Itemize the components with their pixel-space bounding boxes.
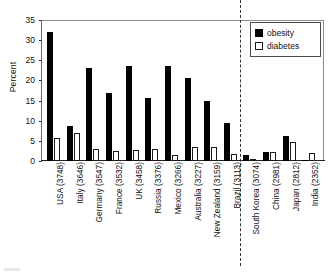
bar-group: [86, 20, 99, 161]
bar-diabetes: [250, 159, 256, 161]
bar-obesity: [67, 126, 73, 161]
y-axis-title: Percent: [8, 42, 18, 112]
x-axis-tick-label: USA (3748): [56, 162, 65, 205]
x-axis-tick-label-text: South Korea (3074): [252, 162, 261, 234]
x-axis-tick-label: Brazil (3113): [233, 162, 242, 208]
bar-obesity: [263, 152, 269, 161]
x-axis-tick-label-text: Australia (3227): [194, 162, 203, 221]
bar-diabetes: [231, 154, 237, 161]
y-axis-tick-label: 30: [19, 36, 35, 45]
bar-group: [165, 20, 178, 161]
x-axis-tick-label: India (2352): [311, 162, 320, 206]
x-axis-tick-label: Germany (3547): [95, 162, 104, 222]
bar-obesity: [302, 160, 308, 161]
scan-artifact: [4, 268, 20, 271]
legend-item-obesity: obesity: [255, 27, 316, 39]
legend-label-obesity: obesity: [267, 29, 294, 38]
bar-group: [106, 20, 119, 161]
bar-obesity: [86, 68, 92, 161]
bar-diabetes: [270, 152, 276, 161]
x-axis-tick-label-text: USA (3748): [56, 162, 65, 205]
solid-black-square-icon: [255, 29, 263, 37]
x-axis-tick-label-text: Russia (3376): [154, 162, 163, 214]
legend-item-diabetes: diabetes: [255, 40, 316, 52]
x-axis-tick-label-text: France (3532): [115, 162, 124, 214]
bar-diabetes: [211, 147, 217, 162]
bar-group: [185, 20, 198, 161]
legend-label-diabetes: diabetes: [267, 42, 299, 51]
y-axis-tick-label: 15: [19, 97, 35, 106]
x-axis-tick-label: Australia (3227): [194, 162, 203, 221]
bar-group: [204, 20, 217, 161]
y-axis-tick-label: 5: [19, 137, 35, 146]
bar-obesity: [47, 32, 53, 161]
y-axis-tick-label: 10: [19, 117, 35, 126]
bar-diabetes: [133, 150, 139, 161]
x-axis-tick-label-text: Mexico (3266): [174, 162, 183, 215]
x-axis-tick-label: South Korea (3074): [252, 162, 261, 234]
bar-obesity: [283, 136, 289, 161]
x-axis-tick-label: Russia (3376): [154, 162, 163, 214]
bar-diabetes: [152, 149, 158, 161]
bar-chart: Percent 35302520151050 obesity diabetes …: [0, 0, 329, 277]
bar-obesity: [243, 155, 249, 161]
x-axis-tick-label: Mexico (3266): [174, 162, 183, 215]
bar-diabetes: [54, 138, 60, 161]
y-axis-tick-label: 25: [19, 56, 35, 65]
x-axis-tick-label: New Zealand (3159): [213, 162, 222, 237]
chart-legend: obesity diabetes: [250, 22, 321, 57]
x-axis-tick-label-text: Japan (2812): [292, 162, 301, 211]
x-axis-tick-label-text: Germany (3547): [95, 162, 104, 222]
bar-diabetes: [74, 133, 80, 161]
bar-group: [145, 20, 158, 161]
bar-group: [47, 20, 60, 161]
x-axis-tick-label: China (2981): [272, 162, 281, 210]
y-axis-tick-label: 35: [19, 16, 35, 25]
bar-obesity: [185, 78, 191, 161]
bar-obesity: [126, 66, 132, 161]
x-axis-tick-label-text: UK (3458): [135, 162, 144, 200]
y-axis-tick-labels: 35302520151050: [19, 0, 35, 277]
x-axis-tick-label-text: India (2352): [311, 162, 320, 206]
x-axis-tick-label: UK (3458): [135, 162, 144, 200]
dotted-square-icon: [255, 42, 263, 50]
x-axis-tick-labels: USA (3748)Italy (3646)Germany (3547)Fran…: [41, 162, 324, 274]
x-axis-tick-label: France (3532): [115, 162, 124, 214]
bar-obesity: [204, 101, 210, 161]
bar-diabetes: [290, 142, 296, 161]
bar-diabetes: [93, 149, 99, 161]
bar-diabetes: [309, 153, 315, 161]
bar-group: [224, 20, 237, 161]
bar-obesity: [224, 123, 230, 161]
x-axis-tick-label-text: Italy (3646): [76, 162, 85, 204]
bar-obesity: [106, 93, 112, 161]
y-axis-tick-label: 0: [19, 157, 35, 166]
bar-diabetes: [192, 147, 198, 162]
bar-diabetes: [113, 151, 119, 161]
bar-obesity: [165, 66, 171, 161]
x-axis-tick-label-text: China (2981): [272, 162, 281, 210]
x-axis-tick-label-text: New Zealand (3159): [213, 162, 222, 237]
bar-group: [67, 20, 80, 161]
x-axis-tick-label-text: Brazil (3113): [233, 162, 242, 208]
y-axis-tick-label: 20: [19, 76, 35, 85]
x-axis-tick-label: Italy (3646): [76, 162, 85, 204]
x-axis-tick-label: Japan (2812): [292, 162, 301, 211]
bar-diabetes: [172, 155, 178, 161]
bar-obesity: [145, 98, 151, 161]
bar-group: [126, 20, 139, 161]
